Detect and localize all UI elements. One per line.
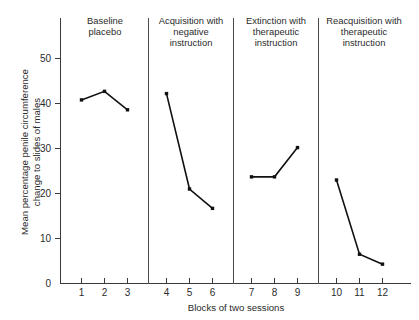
y-tick-label-10: 10	[40, 233, 52, 244]
y-axis-title-line2: change to slides of males	[31, 98, 42, 206]
x-tick-label-11: 11	[354, 287, 365, 298]
y-tick-label-0: 0	[45, 278, 51, 289]
panel-title-line-2: therapeutic	[341, 26, 388, 37]
data-point-block-2	[103, 90, 106, 93]
panel-title-line-1: Extinction with	[246, 15, 306, 26]
panel-title-line-2: therapeutic	[253, 26, 300, 37]
panel-title-line-3: instruction	[170, 37, 213, 48]
data-point-block-3	[126, 108, 129, 111]
x-tick-label-5: 5	[187, 287, 193, 298]
panel-dividers	[149, 18, 319, 284]
panel-title-line-3: instruction	[255, 37, 298, 48]
x-tick-label-1: 1	[79, 287, 85, 298]
data-point-block-5	[188, 187, 191, 190]
panel-title-line-1: Reacquisition with	[326, 15, 402, 26]
panel-title-line-1: Acquisition with	[159, 15, 224, 26]
series-line-extinction-therapeutic	[252, 148, 298, 177]
x-tick-label-8: 8	[272, 287, 278, 298]
x-axis-ticks	[82, 278, 383, 284]
y-tick-label-50: 50	[40, 53, 52, 64]
y-axis-title-line1: Mean percentage penile circumference	[19, 69, 30, 235]
y-axis-ticks	[55, 59, 61, 239]
data-point-block-6	[211, 207, 214, 210]
x-tick-label-7: 7	[249, 287, 255, 298]
panel-title-line-2: placebo	[89, 26, 122, 37]
x-tick-label-6: 6	[210, 287, 216, 298]
series-line-reacquisition-therapeutic	[337, 180, 383, 264]
x-tick-label-9: 9	[295, 287, 301, 298]
panel-title-line-1: Baseline	[87, 15, 123, 26]
axes	[61, 18, 412, 284]
x-axis-tick-labels: 1 2 3 4 5 6 7 8 9 10 11 12	[79, 287, 389, 298]
data-point-block-10	[335, 178, 338, 181]
panel-title-extinction-therapeutic: Extinction with therapeutic instruction	[246, 15, 306, 48]
y-axis-title: Mean percentage penile circumference cha…	[19, 69, 42, 235]
panel-title-reacquisition-therapeutic: Reacquisition with therapeutic instructi…	[326, 15, 402, 48]
data-point-block-12	[381, 262, 384, 265]
data-point-block-11	[358, 253, 361, 256]
x-tick-label-12: 12	[377, 287, 389, 298]
data-point-block-1	[80, 98, 83, 101]
panel-title-line-3: instruction	[343, 37, 386, 48]
chart-figure: 50 40 30 20 10 0 1 2 3 4 5	[0, 0, 419, 320]
x-tick-label-2: 2	[102, 287, 108, 298]
data-point-block-9	[296, 146, 299, 149]
series-line-acquisition-negative	[167, 94, 213, 209]
x-tick-label-10: 10	[331, 287, 343, 298]
panel-title-acquisition-negative: Acquisition with negative instruction	[159, 15, 224, 48]
panel-title-line-2: negative	[173, 26, 208, 37]
panel-title-baseline-placebo: Baseline placebo	[87, 15, 123, 37]
x-tick-label-3: 3	[125, 287, 131, 298]
data-series-layer	[80, 90, 384, 266]
data-point-block-7	[250, 175, 253, 178]
series-line-baseline-placebo	[82, 91, 128, 109]
x-tick-label-4: 4	[164, 287, 170, 298]
chart-svg: 50 40 30 20 10 0 1 2 3 4 5	[0, 0, 419, 320]
data-point-block-8	[273, 175, 276, 178]
x-axis-title: Blocks of two sessions	[188, 302, 285, 313]
data-point-block-4	[165, 92, 168, 95]
